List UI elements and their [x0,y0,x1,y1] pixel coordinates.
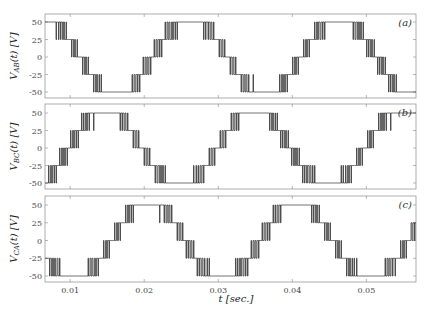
y-tick-label: 50 [32,201,42,210]
waveform-trace [45,22,416,92]
y-axis-label: VBC(t) [V] [8,122,21,170]
x-tick-label: 0.04 [283,286,301,295]
panel-b: 50250-25-50VBC(t) [V](b) [8,104,416,189]
x-tick-label: 0.05 [357,286,375,295]
x-tick-label: 0.02 [135,286,153,295]
y-tick-label: 50 [32,109,42,118]
three-phase-voltage-chart: 50250-25-50VAB(t) [V](a)50250-25-50VBC(t… [0,0,429,314]
y-tick-label: 25 [32,127,42,136]
y-tick-label: -50 [29,179,42,188]
panel-label: (a) [398,17,412,28]
y-tick-label: -50 [29,88,42,97]
panel-label: (b) [398,107,412,118]
y-tick-label: 25 [32,36,42,45]
x-axis-label: t [sec.] [219,293,254,304]
y-tick-label: -25 [29,71,42,80]
waveform-trace [45,205,416,276]
waveform-trace [45,113,416,183]
y-tick-label: 50 [32,18,42,27]
y-tick-label: -25 [29,254,42,263]
y-tick-label: 0 [37,144,42,153]
y-tick-label: 0 [37,237,42,246]
y-axis-label: VAB(t) [V] [8,32,21,80]
y-tick-label: -50 [29,272,42,281]
plot-frame [45,196,416,282]
y-tick-label: 25 [32,219,42,228]
y-axis-label: VCA(t) [V] [8,215,21,263]
x-tick-label: 0.01 [61,286,79,295]
y-tick-label: -25 [29,162,42,171]
panel-label: (c) [399,199,413,210]
plot-frame [45,104,416,189]
panel-c: 50250-25-500.010.020.030.040.05VCA(t) [V… [8,196,416,295]
y-tick-label: 0 [37,53,42,62]
panel-a: 50250-25-50VAB(t) [V](a) [8,14,416,98]
